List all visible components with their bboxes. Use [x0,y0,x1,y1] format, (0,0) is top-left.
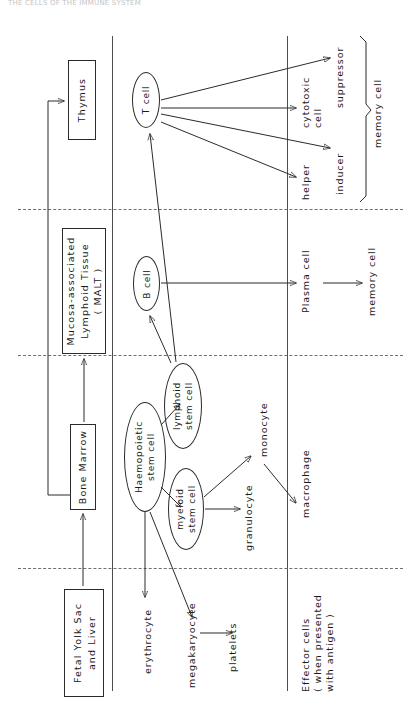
label-macrophage: macrophage [300,449,312,518]
cell-node-haemopoietic-stem-cell[interactable]: Haemopoietic stem cell [124,402,166,512]
cytotoxic-line-1: cytotoxic [300,77,311,128]
vertical-rule-right [287,36,288,691]
label-inducer: inducer [334,153,346,195]
lymphoid-line-2: stem cell [184,382,194,430]
cell-node-myeloid-label: myeloid stem cell [174,485,198,533]
label-suppressor: suppressor [334,47,346,108]
malt-line-1: Mucosa-associated [65,237,76,346]
lymphoid-line-1: lymphoid [172,382,182,430]
cell-node-t-cell[interactable]: T cell [132,72,160,128]
cell-node-b-cell[interactable]: B cell [133,256,160,311]
band-divider-stem-base [18,568,403,569]
cell-node-t-cell-label: T cell [140,86,152,115]
edge-monocyte-to-macrophage [264,464,296,503]
cell-node-myeloid-stem-cell[interactable]: myeloid stem cell [168,468,204,550]
organ-box-malt[interactable]: Mucosa-associated Lymphoid Tissue ( MALT… [62,228,106,354]
label-plasma-cell: Plasma cell [300,250,312,313]
organ-box-malt-label: Mucosa-associated Lymphoid Tissue ( MALT… [64,237,105,346]
band-divider-b-stem [18,355,403,356]
haemopoietic-line-2: stem cell [146,433,156,481]
effector-line-3: with antigen ) [324,613,335,692]
myeloid-line-1: myeloid [175,488,185,529]
effector-line-2: ( when presented [312,594,323,692]
fetal-line-2: and Liver [85,616,96,670]
label-erythrocyte: erythrocyte [142,609,154,674]
edge-lymphoid-to-t-cell [150,134,176,362]
diagram-canvas: THE CELLS OF THE IMMUNE SYSTEM Thymus Mu… [0,0,410,711]
cell-node-haemopoietic-label: Haemopoietic stem cell [133,421,157,493]
brace-memory-cell [360,36,371,202]
label-cytotoxic-cell: cytotoxic cell [300,77,324,128]
cell-node-lymphoid-label: lymphoid stem cell [171,382,195,430]
cell-node-b-cell-label: B cell [141,269,153,298]
page-header-crumb: THE CELLS OF THE IMMUNE SYSTEM [8,0,158,7]
malt-line-2: Lymphoid Tissue [78,243,89,338]
organ-box-thymus[interactable]: Thymus [68,60,96,140]
cytotoxic-line-2: cell [312,108,323,128]
footer-effector-caption: Effector cells ( when presented with ant… [300,594,336,692]
organ-box-thymus-label: Thymus [75,78,89,122]
label-platelets: platelets [227,623,239,672]
haemopoietic-line-1: Haemopoietic [134,421,144,493]
label-granulocyte: granulocyte [243,484,255,551]
label-monocyte: monocyte [258,402,270,457]
effector-line-1: Effector cells [300,618,311,692]
organ-box-bone-marrow-label: Bone Marrow [76,430,90,504]
fetal-line-1: Fetal Yolk Sac [72,603,83,683]
myeloid-line-2: stem cell [187,485,197,533]
label-memory-cell: memory cell [366,247,378,316]
label-megakaryocyte: megakaryocyte [186,602,198,688]
cell-node-lymphoid-stem-cell[interactable]: lymphoid stem cell [164,363,202,449]
malt-line-3: ( MALT ) [92,268,103,315]
label-memory-cell-brace: memory cell [372,79,384,148]
band-divider-t-b [18,209,403,210]
label-helper: helper [300,164,312,200]
organ-box-fetal-yolk-sac[interactable]: Fetal Yolk Sac and Liver [64,589,104,697]
organ-box-fetal-label: Fetal Yolk Sac and Liver [71,603,98,683]
organ-box-bone-marrow[interactable]: Bone Marrow [70,424,96,510]
vertical-rule-left [112,36,113,691]
edge-t-cell-to-helper [161,122,296,177]
